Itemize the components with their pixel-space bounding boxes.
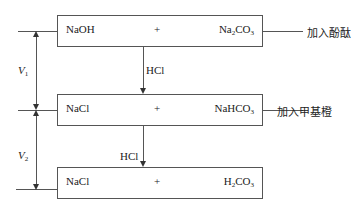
v2-arrow-up-icon bbox=[33, 110, 39, 116]
stage-3-reactant-left: NaCl bbox=[66, 175, 89, 187]
v2-label: V2 bbox=[18, 149, 28, 163]
hcl-label-1: HCl bbox=[146, 64, 164, 76]
stage-box-1: NaOH + Na2CO3 bbox=[57, 15, 263, 47]
stage-3-reactant-right: H2CO3 bbox=[224, 175, 254, 189]
v1-arrow-up-icon bbox=[33, 31, 39, 37]
v2-arrow-down-icon bbox=[33, 184, 39, 190]
note-phenolphthalein: 加入酚酞 bbox=[307, 24, 351, 40]
hcl-arrow-1-head-icon bbox=[140, 88, 146, 94]
stage-1-reactant-left: NaOH bbox=[66, 23, 95, 35]
hcl-label-2: HCl bbox=[120, 150, 138, 162]
v1-arrow-shaft bbox=[36, 35, 37, 107]
hcl-arrow-1-shaft bbox=[143, 47, 144, 89]
hcl-arrow-2-head-icon bbox=[140, 161, 146, 167]
stage-1-plus: + bbox=[154, 23, 160, 35]
stage-box-3: NaCl + H2CO3 bbox=[57, 167, 263, 199]
stage-2-reactant-left: NaCl bbox=[66, 102, 89, 114]
stage-2-reactant-right: NaHCO3 bbox=[214, 102, 254, 116]
stage-2-plus: + bbox=[154, 102, 160, 114]
v2-arrow-shaft bbox=[36, 114, 37, 186]
stage-1-reactant-right: Na2CO3 bbox=[219, 23, 254, 37]
v1-label: V1 bbox=[18, 64, 28, 78]
stage-box-2: NaCl + NaHCO3 bbox=[57, 94, 263, 126]
stage-3-plus: + bbox=[154, 175, 160, 187]
hcl-arrow-2-shaft bbox=[143, 126, 144, 161]
note-line-1 bbox=[263, 31, 303, 32]
note-methyl-orange: 加入甲基橙 bbox=[277, 103, 332, 119]
